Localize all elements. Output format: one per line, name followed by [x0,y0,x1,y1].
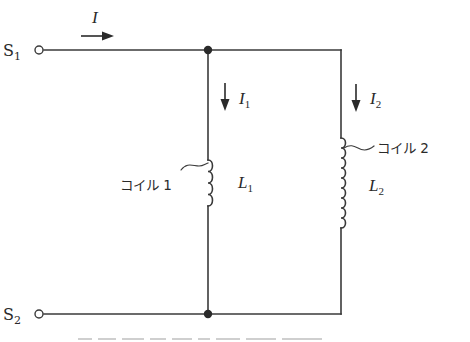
junction-top [204,46,212,54]
coil1-name-label: コイル 1 [120,177,172,193]
inductance-l1-label: L1 [237,173,253,194]
current-i-label: I [91,8,99,27]
coil2-name-label: コイル 2 [377,140,429,156]
coil1-leader-line [181,163,208,170]
current-arrow-i2 [352,84,361,112]
terminal-s1-label: S1 [3,41,21,63]
coil1-inductor-symbol [208,160,213,206]
terminal-s1 [35,46,43,54]
terminal-s2-label: S2 [3,305,21,327]
current-i2-label: I2 [369,89,381,110]
inductance-l2-label: L2 [368,176,384,197]
junction-bottom [204,310,212,318]
circuit-diagram: S1 S2 I I1 I2 L1 L2 コイル 1 コイル 2 [0,0,470,342]
coil2-leader-line [344,146,374,150]
current-arrow-i1 [221,83,230,111]
figure-caption-cropped [78,338,344,342]
terminal-s2 [35,310,43,318]
current-i1-label: I1 [238,89,250,110]
coil2-inductor-symbol [341,138,346,228]
current-arrow-i [81,32,114,41]
